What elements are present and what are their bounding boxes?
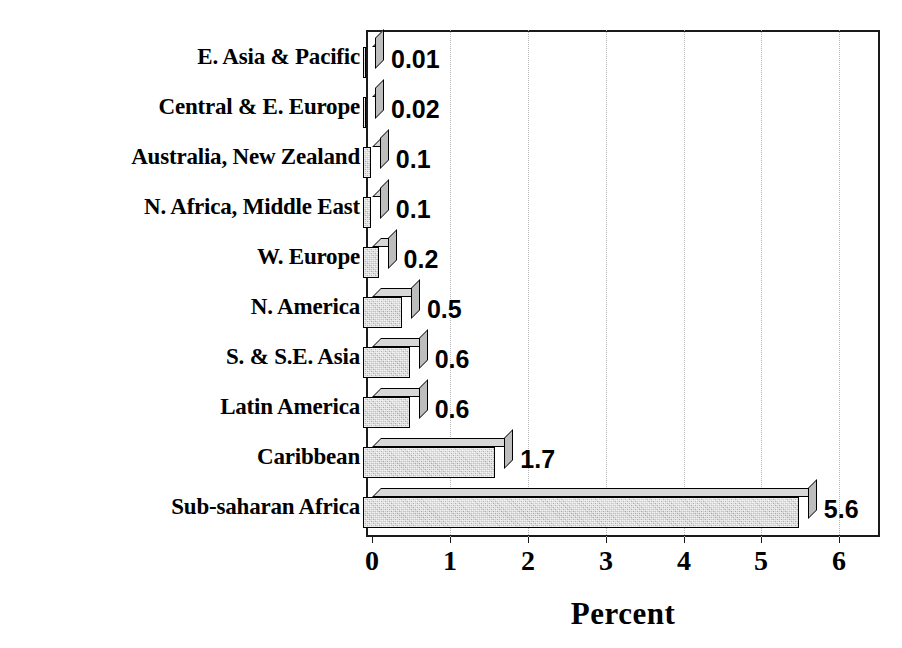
bar-front-face: [363, 147, 371, 178]
x-tick-label: 6: [819, 545, 859, 577]
bar-chart: E. Asia & Pacific 0.01 Central & E. Euro…: [0, 0, 902, 648]
x-tick-label: 0: [352, 545, 392, 577]
x-tick-label: 5: [741, 545, 781, 577]
x-tick: [839, 537, 840, 543]
bar-front-face: [363, 397, 410, 428]
bar-row: Sub-saharan Africa 5.6: [0, 482, 902, 532]
bar-row: Australia, New Zealand 0.1: [0, 132, 902, 182]
bar-front-face: [363, 197, 371, 228]
bar-front-face: [363, 447, 495, 478]
x-axis-title: Percent: [366, 596, 880, 632]
x-tick: [684, 537, 685, 543]
bar-side-face: [375, 29, 384, 69]
bar-row: E. Asia & Pacific 0.01: [0, 32, 902, 82]
category-label: Australia, New Zealand: [0, 132, 360, 182]
bar-side-face: [380, 129, 389, 169]
bar-3d[interactable]: [372, 388, 419, 428]
x-tick: [372, 537, 373, 543]
bar-side-face: [808, 479, 817, 519]
x-tick: [761, 537, 762, 543]
value-label: 0.1: [396, 132, 431, 182]
bar-top-face: [372, 438, 513, 447]
value-label: 0.1: [396, 182, 431, 232]
x-tick-label: 4: [664, 545, 704, 577]
bar-side-face: [388, 229, 397, 269]
bar-side-face: [411, 279, 420, 319]
bar-3d[interactable]: [372, 188, 380, 228]
bar-front-face: [363, 347, 410, 378]
x-tick-label: 3: [586, 545, 626, 577]
x-tick-label: 2: [508, 545, 548, 577]
bar-3d[interactable]: [372, 288, 411, 328]
bar-side-face: [375, 79, 384, 119]
bar-3d[interactable]: [372, 88, 375, 128]
category-label: Latin America: [0, 382, 360, 432]
category-label: W. Europe: [0, 232, 360, 282]
bar-row: Latin America 0.6: [0, 382, 902, 432]
bar-side-face: [380, 179, 389, 219]
bar-3d[interactable]: [372, 338, 419, 378]
category-label: S. & S.E. Asia: [0, 332, 360, 382]
bar-row: S. & S.E. Asia 0.6: [0, 332, 902, 382]
value-label: 0.6: [435, 332, 470, 382]
category-label: Sub-saharan Africa: [0, 482, 360, 532]
bar-row: N. America 0.5: [0, 282, 902, 332]
bar-row: N. Africa, Middle East 0.1: [0, 182, 902, 232]
value-label: 0.6: [435, 382, 470, 432]
bar-top-face: [372, 488, 817, 497]
bar-3d[interactable]: [372, 138, 380, 178]
bar-side-face: [504, 429, 513, 469]
category-label: Central & E. Europe: [0, 82, 360, 132]
category-label: N. Africa, Middle East: [0, 182, 360, 232]
category-label: E. Asia & Pacific: [0, 32, 360, 82]
bar-front-face: [363, 47, 366, 78]
bar-3d[interactable]: [372, 438, 504, 478]
category-label: N. America: [0, 282, 360, 332]
x-tick: [528, 537, 529, 543]
value-label: 0.5: [427, 282, 462, 332]
category-label: Caribbean: [0, 432, 360, 482]
x-tick: [606, 537, 607, 543]
bar-front-face: [363, 297, 402, 328]
value-label: 0.02: [391, 82, 440, 132]
value-label: 0.01: [391, 32, 440, 82]
bar-row: Central & E. Europe 0.02: [0, 82, 902, 132]
bar-3d[interactable]: [372, 488, 808, 528]
bar-front-face: [363, 247, 379, 278]
bar-3d[interactable]: [372, 38, 375, 78]
value-label: 0.2: [404, 232, 439, 282]
bar-3d[interactable]: [372, 238, 388, 278]
bar-row: Caribbean 1.7: [0, 432, 902, 482]
bar-side-face: [419, 329, 428, 369]
bar-front-face: [363, 97, 366, 128]
value-label: 5.6: [824, 482, 859, 532]
x-tick: [450, 537, 451, 543]
bar-front-face: [363, 497, 799, 528]
bar-row: W. Europe 0.2: [0, 232, 902, 282]
bar-side-face: [419, 379, 428, 419]
value-label: 1.7: [520, 432, 555, 482]
x-tick-label: 1: [430, 545, 470, 577]
